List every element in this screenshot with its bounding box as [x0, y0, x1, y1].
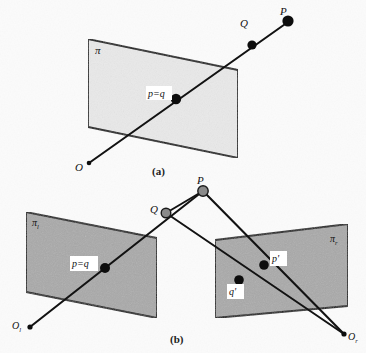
point-pq-left-dot: [100, 263, 110, 273]
point-pq-dot: [171, 94, 181, 104]
point-or-dot: [341, 331, 346, 336]
point-q-label-b: Q: [150, 203, 158, 215]
point-p-label-b: P: [196, 174, 204, 186]
point-pq-label: p=q: [147, 88, 165, 99]
figure-root: π p=q Q P O (a): [0, 0, 366, 353]
plane-pi-label: π: [95, 44, 101, 56]
plane-pi-left-label-sub: l: [37, 223, 39, 230]
caption-b: (b): [170, 333, 184, 346]
point-qprime-label: q': [229, 286, 237, 297]
point-o-label: O: [75, 161, 83, 173]
point-o-dot: [87, 161, 92, 166]
point-p-dot: [282, 15, 293, 26]
point-p-node: [198, 186, 208, 196]
point-pprime-dot: [259, 260, 269, 270]
point-qprime-dot: [234, 275, 244, 285]
point-q-node: [161, 208, 171, 218]
point-or-label-base: O: [348, 331, 355, 342]
point-pprime-label: p': [271, 253, 280, 264]
point-ol-dot: [27, 324, 32, 329]
figure-canvas: π p=q Q P O (a): [0, 0, 366, 353]
caption-a: (a): [152, 165, 165, 178]
point-pq-left-label: p=q: [71, 258, 89, 269]
point-p-label: P: [279, 5, 287, 17]
point-q-dot: [247, 40, 256, 49]
point-ol-label-sub: l: [19, 326, 21, 333]
point-q-label: Q: [240, 17, 248, 29]
point-ol-label-base: O: [12, 320, 19, 331]
